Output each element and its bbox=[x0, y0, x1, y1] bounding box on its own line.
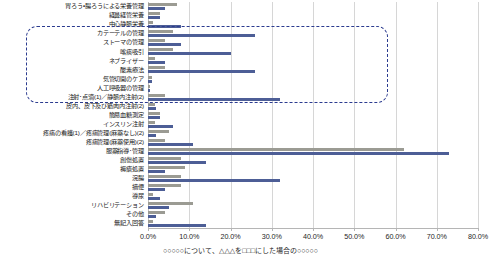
category-label: 注射･点滴(1)／静脈内注射(2) bbox=[68, 93, 144, 100]
bar-series-2 bbox=[148, 161, 206, 164]
bar-group bbox=[148, 94, 478, 103]
bar-series-2 bbox=[148, 188, 165, 191]
bar-series-2 bbox=[148, 80, 152, 83]
bar-series-1 bbox=[148, 21, 153, 24]
tickmark-30 bbox=[272, 228, 273, 231]
bar-group bbox=[148, 12, 478, 21]
category-label: 簡易血糖測定 bbox=[109, 111, 144, 118]
bar-series-1 bbox=[148, 157, 181, 160]
category-label: 疼痛管理(麻薬使用)(2) bbox=[86, 138, 144, 145]
category-label: ストーマの管理 bbox=[103, 38, 144, 45]
tickmark-10 bbox=[189, 228, 190, 231]
bar-series-1 bbox=[148, 48, 173, 51]
category-label: 疼痛の看護(1)／疼痛管理(麻薬なし)(2) bbox=[43, 129, 144, 136]
x-tick-label: 30.0% bbox=[251, 232, 293, 241]
category-label: 中心静脈栄養 bbox=[109, 20, 144, 27]
bar-series-2 bbox=[148, 179, 280, 182]
category-label: 創傷処置 bbox=[120, 156, 144, 163]
bar-group bbox=[148, 66, 478, 75]
tickmark-70 bbox=[437, 228, 438, 231]
x-tick-label: 60.0% bbox=[375, 232, 417, 241]
bar-group bbox=[148, 148, 478, 157]
bar-series-1 bbox=[148, 39, 165, 42]
bar-series-2 bbox=[148, 215, 156, 218]
category-label: 褥瘡処置 bbox=[120, 165, 144, 172]
figure-caption: ○○○○○について、△△△を□□□にした場合の○○○○○ bbox=[0, 247, 481, 255]
bar-series-2 bbox=[148, 116, 160, 119]
category-label: 気管切開のケア bbox=[103, 75, 144, 82]
category-label: その他 bbox=[126, 210, 144, 217]
bar-group bbox=[148, 76, 478, 85]
bar-group bbox=[148, 130, 478, 139]
bar-series-1 bbox=[148, 12, 160, 15]
bar-series-2 bbox=[148, 143, 193, 146]
bar-series-2 bbox=[148, 52, 231, 55]
tickmark-20 bbox=[231, 228, 232, 231]
x-tick-label: 50.0% bbox=[333, 232, 375, 241]
bar-series-1 bbox=[148, 112, 160, 115]
bar-series-1 bbox=[148, 175, 181, 178]
bar-series-2 bbox=[148, 34, 255, 37]
tickmark-50 bbox=[354, 228, 355, 231]
bar-group bbox=[148, 21, 478, 30]
tickmark-40 bbox=[313, 228, 314, 231]
x-tick-label: 20.0% bbox=[210, 232, 252, 241]
bar-group bbox=[148, 103, 478, 112]
bar-group bbox=[148, 157, 478, 166]
category-label: 酸素療法 bbox=[120, 66, 144, 73]
category-label: 摘便 bbox=[132, 183, 144, 190]
bar-group bbox=[148, 3, 478, 12]
bar-series-1 bbox=[148, 85, 150, 88]
plot-area bbox=[148, 2, 478, 228]
bar-group bbox=[148, 85, 478, 94]
bar-series-2 bbox=[148, 43, 181, 46]
bar-series-1 bbox=[148, 202, 193, 205]
bar-series-1 bbox=[148, 166, 185, 169]
tickmark-80 bbox=[478, 228, 479, 231]
bar-group bbox=[148, 30, 478, 39]
bar-series-2 bbox=[148, 7, 165, 10]
bar-series-2 bbox=[148, 25, 181, 28]
category-label: 服薬指導･管理 bbox=[106, 147, 144, 154]
x-tick-label: 80.0% bbox=[457, 232, 493, 241]
bar-series-2 bbox=[148, 170, 165, 173]
bar-series-1 bbox=[148, 130, 169, 133]
x-tick-label: 70.0% bbox=[416, 232, 458, 241]
bar-series-2 bbox=[148, 197, 160, 200]
category-label: 人工呼吸器の管理 bbox=[97, 84, 144, 91]
bar-series-2 bbox=[148, 16, 160, 19]
category-label: 喀痰吸引 bbox=[120, 48, 144, 55]
bar-group bbox=[148, 211, 478, 220]
category-label: 経鼻経管栄養 bbox=[109, 11, 144, 18]
bar-series-2 bbox=[148, 224, 206, 227]
bar-series-2 bbox=[148, 206, 169, 209]
bar-series-1 bbox=[148, 66, 165, 69]
bar-group bbox=[148, 48, 478, 57]
bar-group bbox=[148, 193, 478, 202]
category-label: カテーテルの管理 bbox=[97, 29, 144, 36]
tickmark-0 bbox=[148, 228, 149, 231]
category-label: 浣腸 bbox=[132, 174, 144, 181]
bar-series-1 bbox=[148, 184, 181, 187]
bar-series-1 bbox=[148, 211, 165, 214]
bar-group bbox=[148, 184, 478, 193]
category-label: 導尿 bbox=[132, 192, 144, 199]
bar-series-2 bbox=[148, 152, 449, 155]
bar-series-1 bbox=[148, 139, 165, 142]
bar-series-1 bbox=[148, 76, 152, 79]
bar-series-2 bbox=[148, 125, 173, 128]
bar-group bbox=[148, 202, 478, 211]
category-label: 皮内、皮下及び筋肉内注射(2) bbox=[66, 102, 144, 109]
bar-series-1 bbox=[148, 57, 155, 60]
tickmark-60 bbox=[396, 228, 397, 231]
bar-series-1 bbox=[148, 3, 177, 6]
bar-group bbox=[148, 112, 478, 121]
category-label: 胃ろう・腸ろうによる栄養管理 bbox=[65, 2, 144, 9]
x-tick-label: 10.0% bbox=[168, 232, 210, 241]
bar-series-1 bbox=[148, 103, 155, 106]
bar-series-2 bbox=[148, 61, 165, 64]
bar-series-1 bbox=[148, 148, 404, 151]
category-label: 無記入回答 bbox=[114, 219, 144, 226]
bar-series-1 bbox=[148, 220, 153, 223]
